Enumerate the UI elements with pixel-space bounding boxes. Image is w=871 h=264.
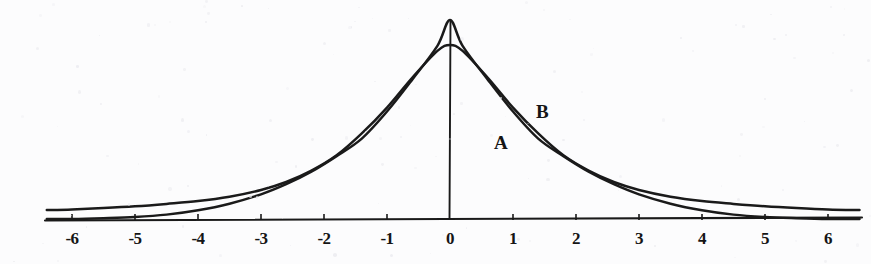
plot-canvas: [0, 0, 871, 264]
scan-speck: [460, 37, 463, 40]
scan-speck: [654, 245, 656, 247]
scan-speck: [737, 198, 740, 201]
scan-speck: [850, 89, 853, 92]
scan-speck: [36, 47, 39, 50]
scan-speck: [158, 95, 161, 98]
scan-speck: [832, 52, 834, 54]
scan-speck: [147, 23, 150, 26]
scan-speck: [268, 185, 269, 186]
scan-speck: [256, 196, 259, 199]
scan-speck: [734, 257, 735, 258]
scan-speck: [529, 240, 531, 242]
scan-speck: [782, 189, 784, 191]
scan-speck: [374, 81, 375, 82]
scan-speck: [138, 163, 140, 165]
x-axis-line: [45, 218, 862, 221]
scan-speck: [742, 25, 745, 28]
scan-speck: [740, 133, 743, 136]
scan-speck: [286, 87, 289, 90]
scan-speck: [414, 167, 417, 170]
x-tick-label--4: -4: [191, 229, 204, 249]
scan-speck: [249, 194, 252, 197]
scan-speck: [39, 14, 41, 16]
scan-speck: [804, 121, 805, 122]
scan-speck: [99, 35, 100, 36]
scan-speck: [773, 38, 775, 40]
x-tick-label-5: 5: [761, 229, 769, 249]
scan-speck: [323, 42, 326, 45]
scan-speck: [562, 139, 565, 142]
scan-speck: [168, 187, 171, 190]
x-tick-label-1: 1: [509, 229, 517, 249]
scan-speck: [333, 253, 337, 257]
scan-speck: [770, 14, 771, 15]
scan-speck: [388, 29, 391, 32]
scan-speck: [290, 245, 291, 246]
curve-label-b: B: [536, 101, 549, 123]
x-tick-label--5: -5: [128, 229, 141, 249]
scan-speck: [692, 50, 694, 52]
x-tick-label-3: 3: [635, 229, 643, 249]
scan-speck: [453, 113, 455, 115]
scan-speck: [867, 59, 870, 62]
x-tick-label--1: -1: [380, 229, 393, 249]
scan-speck: [86, 226, 87, 227]
scan-speck: [390, 254, 393, 257]
scan-speck: [128, 203, 130, 205]
curve-b-path: [47, 45, 860, 210]
scan-speck: [490, 134, 493, 137]
y-axis-line: [450, 20, 451, 219]
scan-speck: [442, 234, 444, 236]
curve-label-a: A: [494, 132, 508, 154]
scan-speck: [500, 97, 502, 99]
scan-speck: [207, 12, 210, 15]
scan-speck: [517, 238, 520, 241]
scan-speck: [57, 126, 58, 127]
scan-speck: [154, 24, 156, 26]
scan-speck: [575, 231, 577, 233]
scan-speck: [206, 134, 207, 135]
scan-speck: [219, 254, 222, 257]
scan-speck: [348, 26, 351, 29]
scan-speck: [590, 53, 593, 56]
scan-speck: [583, 119, 585, 121]
scan-speck: [372, 18, 373, 19]
scan-speck: [505, 116, 506, 117]
scan-speck: [42, 243, 43, 244]
scan-speck: [547, 159, 550, 162]
scan-speck: [581, 91, 582, 92]
scan-speck: [398, 106, 400, 108]
scan-speck: [379, 137, 382, 140]
scan-speck: [241, 5, 243, 7]
scan-speck: [618, 190, 619, 191]
scan-speck: [181, 118, 184, 121]
scan-speck: [680, 37, 682, 39]
x-tick-label--2: -2: [317, 229, 330, 249]
scan-speck: [295, 165, 298, 168]
x-tick-label--6: -6: [65, 229, 78, 249]
scan-speck: [569, 19, 571, 21]
scan-speck: [764, 98, 766, 100]
scan-speck: [836, 144, 839, 147]
x-tick-label-0: 0: [446, 229, 454, 249]
scan-speck: [358, 7, 360, 9]
scan-speck: [820, 230, 821, 231]
scan-speck: [400, 136, 402, 138]
scan-speck: [269, 119, 272, 122]
scan-speck: [662, 118, 666, 122]
x-tick-label--3: -3: [254, 229, 267, 249]
bell-curve-figure: -6-5-4-3-2-10123456 AB: [0, 0, 871, 264]
scan-speck: [76, 65, 79, 68]
scan-speck: [187, 185, 189, 187]
x-tick-label-6: 6: [824, 229, 832, 249]
scan-speck: [856, 243, 859, 246]
scan-speck: [460, 102, 463, 105]
